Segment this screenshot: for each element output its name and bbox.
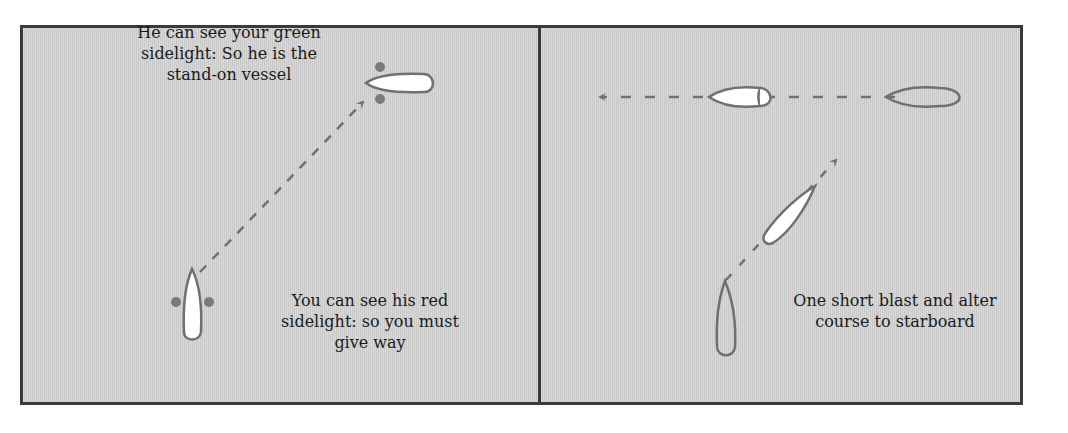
sidelight-icon bbox=[171, 297, 181, 307]
stand-on-caption: He can see your green sidelight: So he i… bbox=[98, 22, 360, 85]
stand-on-vessel bbox=[366, 62, 433, 104]
give-way-caption: You can see his red sidelight: so you mu… bbox=[255, 290, 485, 353]
sidelight-icon bbox=[375, 94, 385, 104]
collision-course-track bbox=[200, 102, 363, 272]
sidelight-icon bbox=[375, 62, 385, 72]
crossing-vessel-future-position bbox=[709, 87, 760, 106]
crossing-vessel-current-position bbox=[886, 87, 960, 106]
hull-icon bbox=[184, 269, 201, 340]
action-caption: One short blast and alter course to star… bbox=[760, 290, 1030, 332]
own-vessel-altered-position bbox=[764, 186, 815, 244]
sidelight-icon bbox=[204, 297, 214, 307]
own-vessel-original-position bbox=[717, 281, 735, 355]
crossing-vessel-future-stern bbox=[760, 88, 771, 106]
hull-icon bbox=[366, 74, 433, 93]
give-way-vessel bbox=[171, 269, 214, 340]
